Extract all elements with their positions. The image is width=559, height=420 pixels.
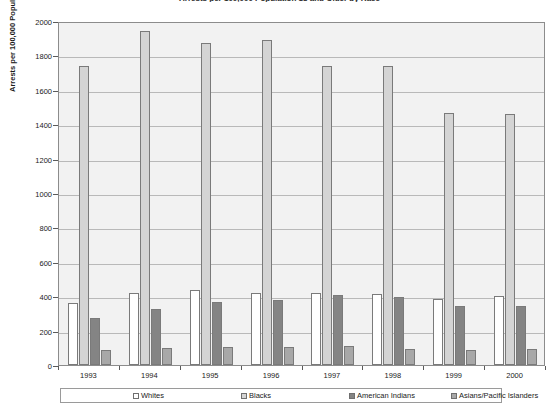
bar-chart: Arrests per 100,000 Population 18 and Ol…	[0, 0, 559, 420]
y-axis-tick-label: 1000	[14, 190, 52, 199]
bar-american-indians-1998	[394, 297, 404, 365]
bar-asians-pacific-islanders-1996	[284, 347, 294, 365]
gridline	[59, 229, 544, 230]
bar-asians-pacific-islanders-1997	[344, 346, 354, 365]
bar-blacks-1995	[201, 43, 211, 365]
y-axis-tick-label: 1400	[14, 121, 52, 130]
y-axis-tick-label: 600	[14, 258, 52, 267]
bar-american-indians-2000	[516, 306, 526, 365]
x-axis-tick-label-1995: 1995	[202, 371, 219, 380]
bar-asians-pacific-islanders-1999	[466, 350, 476, 365]
bar-american-indians-1993	[90, 318, 100, 365]
x-axis-tick-label-1993: 1993	[80, 371, 97, 380]
x-axis-tick-label-1996: 1996	[263, 371, 280, 380]
legend-swatch-icon	[349, 393, 355, 399]
legend-swatch-icon	[133, 393, 139, 399]
y-axis-tick-label: 400	[14, 293, 52, 302]
legend-item-whites[interactable]: Whites	[133, 391, 164, 400]
bar-blacks-1996	[262, 40, 272, 365]
legend-item-american-indians[interactable]: American Indians	[349, 391, 415, 400]
x-axis-tick-mark	[119, 366, 120, 370]
y-axis-tick-label: 2000	[14, 18, 52, 27]
bar-whites-1998	[372, 294, 382, 365]
bar-blacks-1997	[322, 66, 332, 365]
bar-american-indians-1994	[151, 309, 161, 365]
x-axis-tick-mark	[241, 366, 242, 370]
bar-american-indians-1999	[455, 306, 465, 365]
bar-asians-pacific-islanders-2000	[527, 349, 537, 365]
bar-whites-2000	[494, 296, 504, 365]
y-axis-tick-label: 1800	[14, 52, 52, 61]
x-axis-tick-label-2000: 2000	[506, 371, 523, 380]
gridline	[59, 126, 544, 127]
bar-whites-1999	[433, 299, 443, 365]
y-axis-tick-label: 1600	[14, 86, 52, 95]
x-axis-tick-mark	[362, 366, 363, 370]
legend-label: American Indians	[357, 391, 415, 400]
gridline	[59, 57, 544, 58]
gridline	[59, 264, 544, 265]
plot-area	[58, 22, 545, 366]
bar-american-indians-1996	[273, 300, 283, 365]
legend-item-blacks[interactable]: Blacks	[241, 391, 271, 400]
bar-whites-1997	[311, 293, 321, 365]
x-axis-tick-mark	[545, 366, 546, 370]
x-axis-tick-mark	[180, 366, 181, 370]
x-axis-tick-label-1999: 1999	[445, 371, 462, 380]
chart-title: Arrests per 100,000 Population 18 and Ol…	[0, 0, 559, 2]
x-axis-tick-label-1994: 1994	[141, 371, 158, 380]
legend-label: Blacks	[249, 391, 271, 400]
bar-whites-1995	[190, 290, 200, 365]
gridline	[59, 92, 544, 93]
bar-whites-1993	[68, 303, 78, 365]
y-axis-tick-label: 200	[14, 327, 52, 336]
bar-blacks-2000	[505, 114, 515, 365]
x-axis-tick-label-1997: 1997	[324, 371, 341, 380]
bar-blacks-1994	[140, 31, 150, 365]
y-axis-tick-label: 800	[14, 224, 52, 233]
bar-asians-pacific-islanders-1998	[405, 349, 415, 365]
x-axis-tick-label-1998: 1998	[384, 371, 401, 380]
legend-label: Whites	[141, 391, 164, 400]
y-axis-title: Arrests per 100,000 Population 18 and Ol…	[8, 0, 17, 92]
legend-item-asians-pacific-islanders[interactable]: Asians/Pacific Islanders	[451, 391, 538, 400]
gridline	[59, 161, 544, 162]
y-axis-tick-label: 0	[14, 362, 52, 371]
gridline	[59, 195, 544, 196]
legend-label: Asians/Pacific Islanders	[459, 391, 538, 400]
bar-asians-pacific-islanders-1994	[162, 348, 172, 365]
legend-swatch-icon	[451, 393, 457, 399]
plot-inner	[59, 23, 544, 365]
bar-whites-1994	[129, 293, 139, 365]
bar-blacks-1998	[383, 66, 393, 365]
bar-asians-pacific-islanders-1993	[101, 350, 111, 365]
bar-asians-pacific-islanders-1995	[223, 347, 233, 365]
x-axis-tick-mark	[302, 366, 303, 370]
bar-blacks-1999	[444, 113, 454, 365]
x-axis-tick-mark	[58, 366, 59, 370]
x-axis-tick-mark	[484, 366, 485, 370]
bar-blacks-1993	[79, 66, 89, 365]
chart-legend: WhitesBlacksAmerican IndiansAsians/Pacif…	[60, 388, 502, 403]
bar-whites-1996	[251, 293, 261, 365]
x-axis-tick-mark	[423, 366, 424, 370]
y-axis-tick-label: 1200	[14, 155, 52, 164]
y-axis-title-label: Arrests per 100,000 Population 18 and Ol…	[8, 0, 17, 92]
legend-swatch-icon	[241, 393, 247, 399]
bar-american-indians-1995	[212, 302, 222, 365]
bar-american-indians-1997	[333, 295, 343, 365]
